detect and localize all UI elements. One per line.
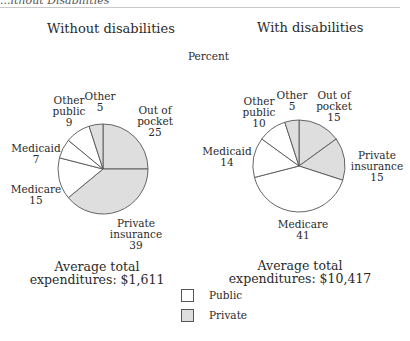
label-out-of-pocket: Out of pocket 15 — [316, 90, 352, 123]
pie-chart-with-disabilities — [252, 119, 346, 213]
label-value: 5 — [85, 102, 116, 113]
label-value: 5 — [277, 101, 308, 112]
label-medicaid: Medicaid 7 — [11, 143, 60, 165]
label-value: 10 — [243, 118, 276, 129]
label-medicare: Medicare 15 — [11, 184, 61, 206]
label-value: 15 — [351, 172, 403, 183]
label-value: 25 — [137, 127, 173, 138]
label-value: 14 — [202, 157, 251, 168]
label-value: 15 — [316, 112, 352, 123]
label-value: 7 — [11, 154, 60, 165]
avg-value: expenditures: $1,611 — [30, 273, 165, 286]
left-chart-title: Without disabilities — [47, 21, 175, 36]
label-medicare: Medicare 41 — [278, 219, 328, 241]
cut-header-text: ...ithout Disabilities — [0, 0, 109, 7]
left-average-expenditures: Average total expenditures: $1,611 — [30, 260, 165, 286]
header-rule: ...ithout Disabilities — [0, 0, 400, 8]
label-other-public: Other public 10 — [243, 96, 276, 129]
label-other-public: Other public 9 — [53, 95, 86, 128]
unit-label: Percent — [188, 50, 229, 62]
legend-label-public: Public — [209, 289, 242, 301]
label-private-insurance: Private insurance 15 — [351, 150, 403, 183]
avg-value: expenditures: $10,417 — [229, 272, 372, 285]
label-value: 15 — [11, 195, 61, 206]
label-other: Other 5 — [85, 91, 116, 113]
label-medicaid: Medicaid 14 — [202, 146, 251, 168]
label-value: 39 — [110, 240, 162, 251]
right-chart-title: With disabilities — [257, 20, 363, 35]
label-value: 41 — [278, 230, 328, 241]
label-other: Other 5 — [277, 90, 308, 112]
legend-swatch-public — [181, 289, 194, 302]
label-private-insurance: Private insurance 39 — [110, 218, 162, 251]
label-out-of-pocket: Out of pocket 25 — [137, 105, 173, 138]
legend-swatch-private — [181, 309, 194, 322]
legend-label-private: Private — [209, 309, 247, 321]
label-value: 9 — [53, 117, 86, 128]
pie-chart-without-disabilities — [57, 123, 149, 215]
right-average-expenditures: Average total expenditures: $10,417 — [229, 259, 372, 285]
